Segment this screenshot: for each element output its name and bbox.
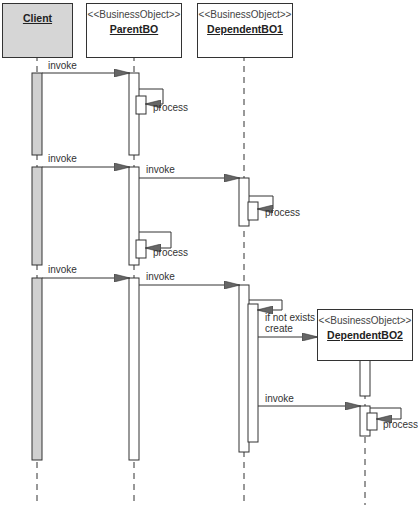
- dep2-process-box: [367, 413, 377, 430]
- label-invoke-6: invoke: [265, 394, 294, 404]
- label-process-3: process: [153, 248, 188, 258]
- dependentbo1-object-box: <<BusinessObject>> DependentBO1: [197, 3, 293, 58]
- client-name: Client: [3, 12, 72, 24]
- label-create: create: [265, 324, 293, 334]
- label-invoke-4: invoke: [48, 265, 77, 275]
- dependentbo2-stereotype: <<BusinessObject>>: [318, 315, 412, 326]
- client-object-box: Client: [2, 3, 73, 58]
- label-if-not-exists: if not exists: [265, 313, 315, 323]
- parent-process-box-1: [136, 96, 146, 114]
- label-invoke-3: invoke: [146, 165, 175, 175]
- parentbo-stereotype: <<BusinessObject>>: [87, 9, 181, 20]
- dependentbo1-stereotype: <<BusinessObject>>: [198, 9, 292, 20]
- diagram-graphics: [0, 0, 418, 507]
- label-process-1: process: [153, 103, 188, 113]
- client-activation-2: [32, 167, 42, 265]
- label-invoke-1: invoke: [48, 61, 77, 71]
- dep1-process-box-1: [248, 202, 258, 220]
- dependentbo2-object-box: <<BusinessObject>> DependentBO2: [317, 309, 413, 361]
- client-activation-3: [32, 278, 42, 460]
- parent-process-box-2: [136, 240, 146, 258]
- label-invoke-5: invoke: [146, 272, 175, 282]
- dep2-activation-1: [360, 360, 370, 396]
- label-process-2: process: [265, 208, 300, 218]
- dependentbo1-name: DependentBO1: [198, 23, 292, 35]
- sequence-diagram: Client <<BusinessObject>> ParentBO <<Bus…: [0, 0, 418, 507]
- dependentbo2-name: DependentBO2: [318, 329, 412, 341]
- client-activation-1: [32, 73, 42, 155]
- dep1-activation-nested: [248, 304, 258, 442]
- parentbo-object-box: <<BusinessObject>> ParentBO: [86, 3, 182, 58]
- parentbo-name: ParentBO: [87, 23, 181, 35]
- label-process-4: process: [383, 420, 418, 430]
- parent-activation-3: [129, 278, 139, 460]
- label-invoke-2: invoke: [48, 154, 77, 164]
